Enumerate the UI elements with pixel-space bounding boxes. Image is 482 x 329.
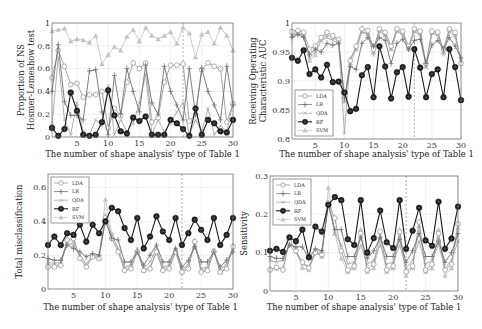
- y-axis-label: Receiving Operating: [248, 37, 258, 125]
- x-tick-label: 20: [164, 291, 174, 300]
- legend-label: QDA: [294, 199, 306, 205]
- series-lda: [46, 216, 236, 275]
- x-tick-label: 20: [165, 139, 175, 148]
- chart-panel-bottom-right: 5101520253000.10.20.3The number of shape…: [239, 172, 463, 312]
- x-axis-label: The number of shape analysis' type of Ta…: [43, 302, 238, 312]
- legend: LDALRQDARFSVM: [295, 90, 333, 136]
- legend-label: LR: [72, 188, 79, 194]
- x-tick-label: 15: [134, 139, 144, 148]
- x-tick-label: 10: [100, 291, 110, 300]
- x-tick-label: 30: [453, 293, 463, 302]
- x-axis-label: The number of shape analysis' type of Ta…: [267, 302, 462, 312]
- x-tick-label: 20: [388, 293, 398, 302]
- y-tick-label: 0.2: [255, 210, 268, 219]
- x-tick-label: 25: [196, 291, 206, 300]
- y-axis-label: Total misclassification: [14, 184, 24, 279]
- y-tick-label: 0.6: [37, 64, 50, 73]
- y-tick-label: 0: [41, 285, 46, 294]
- legend-label: RF: [294, 208, 302, 214]
- y-tick-label: 0: [263, 287, 268, 296]
- y-tick-label: 0.8: [277, 135, 290, 144]
- y-tick-label: 0.95: [272, 48, 290, 57]
- y-axis-label: Hosmer-Lemeshow test: [26, 29, 36, 130]
- y-tick-label: 1: [45, 19, 50, 28]
- legend-label: LDA: [316, 93, 327, 99]
- legend-label: LR: [294, 190, 301, 196]
- y-tick-label: 0.2: [37, 110, 50, 119]
- x-axis-label: The number of shape analysis' type of Ta…: [45, 149, 240, 159]
- x-tick-label: 30: [228, 139, 238, 148]
- y-tick-label: 0.4: [33, 217, 46, 226]
- y-tick-label: 0.6: [33, 183, 46, 192]
- legend-label: SVM: [316, 127, 328, 133]
- legend-label: RF: [72, 206, 80, 212]
- y-tick-label: 0: [45, 133, 50, 142]
- x-tick-label: 5: [71, 291, 76, 300]
- y-tick-label: 0.3: [255, 172, 268, 181]
- x-tick-label: 10: [103, 139, 113, 148]
- x-tick-label: 5: [293, 293, 298, 302]
- y-tick-label: 0.85: [272, 106, 290, 115]
- x-axis-label: The number of shape analysis' type of Ta…: [279, 149, 474, 159]
- legend-label: SVM: [72, 214, 84, 220]
- y-tick-label: 1: [285, 19, 290, 28]
- figure-canvas: 5101520253000.20.40.60.81The number of s…: [0, 0, 482, 329]
- y-tick-label: 0.2: [33, 251, 46, 260]
- x-tick-label: 30: [228, 291, 238, 300]
- x-tick-label: 15: [132, 291, 142, 300]
- legend-label: RF: [316, 119, 324, 125]
- y-tick-label: 0.9: [277, 77, 290, 86]
- legend: LDALRQDARFSVM: [51, 177, 89, 223]
- chart-panel-top-right: 510152025300.80.850.90.951The number of …: [248, 19, 474, 159]
- chart-panel-top-left: 5101520253000.20.40.60.81The number of s…: [16, 19, 240, 159]
- x-tick-label: 15: [356, 293, 366, 302]
- legend-label: QDA: [316, 110, 328, 116]
- x-tick-label: 25: [420, 293, 430, 302]
- legend-label: LDA: [294, 182, 305, 188]
- y-axis-label: Sensitivity: [239, 211, 249, 256]
- series-lr: [50, 42, 236, 138]
- legend-label: LDA: [72, 180, 83, 186]
- legend: LDALRQDARFSVM: [273, 179, 311, 225]
- y-axis-label: Characteristic AUC: [258, 40, 268, 123]
- y-tick-label: 0.1: [255, 248, 268, 257]
- series-qda: [50, 55, 235, 136]
- x-tick-label: 10: [323, 293, 333, 302]
- x-tick-label: 25: [197, 139, 207, 148]
- x-tick-label: 5: [74, 139, 79, 148]
- y-tick-label: 0.8: [37, 42, 50, 51]
- legend-label: SVM: [294, 216, 306, 222]
- chart-panel-bottom-left: 5101520253000.20.40.6The number of shape…: [14, 174, 238, 312]
- y-tick-label: 0.4: [37, 87, 50, 96]
- y-axis-label: Proportion of NS: [16, 44, 26, 116]
- legend-label: LR: [316, 101, 323, 107]
- legend-label: QDA: [72, 197, 84, 203]
